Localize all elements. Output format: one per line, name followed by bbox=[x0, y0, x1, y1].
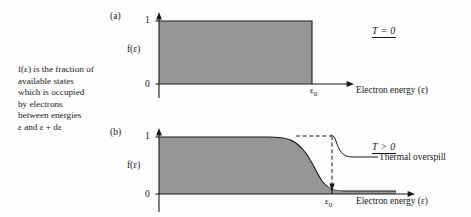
panel-a-ytick-label-0: 0 bbox=[145, 78, 150, 89]
panel-a-temperature-label: T = 0 bbox=[372, 25, 396, 38]
panel-b-y-axis-arrowhead bbox=[156, 128, 162, 135]
panel-a-y-axis-label: f(ε) bbox=[127, 44, 140, 54]
panel-a-epsilon0-subscript: 0 bbox=[314, 90, 318, 98]
panel-a-plot bbox=[156, 12, 355, 98]
panel-b-ytick-label-0: 0 bbox=[145, 188, 150, 199]
panel-b-epsilon0-label: ε0 bbox=[325, 196, 332, 209]
panel-a-x-axis-label: Electron energy (ε) bbox=[356, 85, 428, 95]
fermi-dirac-plots bbox=[0, 0, 471, 217]
figure-page: f(ε) is the fraction of available states… bbox=[0, 0, 471, 217]
panel-a-x-axis-arrowhead bbox=[347, 81, 354, 87]
panel-b-fill-region bbox=[159, 137, 396, 194]
panel-a-ytick-label-1: 1 bbox=[145, 14, 150, 25]
panel-a-fill-region bbox=[159, 21, 312, 84]
panel-b-epsilon0-subscript: 0 bbox=[329, 201, 333, 209]
panel-a-epsilon0-label: ε0 bbox=[310, 85, 317, 98]
panel-b-x-axis-label: Electron energy (ε) bbox=[356, 196, 428, 206]
panel-a-y-axis-arrowhead bbox=[156, 12, 162, 19]
panel-b-y-axis-label: f(ε) bbox=[127, 160, 140, 170]
panel-b-ytick-label-1: 1 bbox=[145, 130, 150, 141]
panel-b-overspill-leader bbox=[331, 135, 378, 157]
thermal-overspill-annotation: Thermal overspill bbox=[379, 152, 446, 162]
